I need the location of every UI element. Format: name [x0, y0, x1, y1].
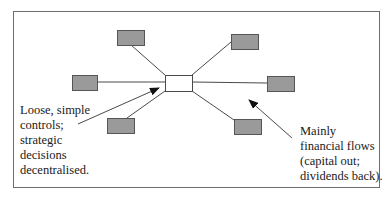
hub-node	[166, 76, 193, 92]
subsidiary-node-bottom-left	[108, 119, 135, 134]
label-line: financial flows	[300, 139, 383, 154]
label-line: controls;	[20, 118, 90, 133]
label-line: dividends back).	[300, 169, 383, 184]
label-loose-controls: Loose, simple controls; strategic decisi…	[20, 103, 90, 178]
subsidiary-node-bottom-right	[235, 120, 262, 135]
subsidiary-node-left	[73, 76, 98, 91]
label-financial-flows: Mainly financial flows (capital out; div…	[300, 124, 383, 184]
subsidiary-node-top-right	[232, 35, 259, 50]
label-line: Mainly	[300, 124, 383, 139]
subsidiary-node-right	[268, 77, 295, 92]
label-line: strategic	[20, 133, 90, 148]
subsidiary-node-top-left	[118, 31, 145, 46]
label-line: Loose, simple	[20, 103, 90, 118]
label-line: decisions	[20, 148, 90, 163]
label-line: decentralised.	[20, 163, 90, 178]
label-line: (capital out;	[300, 154, 383, 169]
